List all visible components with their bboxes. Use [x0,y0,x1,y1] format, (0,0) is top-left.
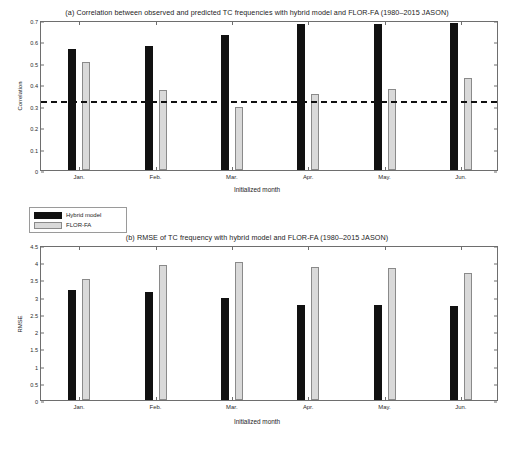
significance-reference-line [41,101,497,103]
y-axis-tick-label: 0.4 [30,83,41,89]
x-axis-tick-mark [156,397,157,400]
x-axis-tick-mark [232,397,233,400]
y-axis-tick-mark [494,264,497,265]
bar-hybrid [450,23,458,170]
y-axis-tick-mark [494,315,497,316]
x-axis-tick-mark [79,22,80,25]
legend-item-hybrid: Hybrid model [34,211,122,219]
y-axis-tick-label: 0.5 [30,62,41,68]
y-axis-tick-mark [494,384,497,385]
legend-label-hybrid: Hybrid model [66,212,101,218]
bar-flor-fa [235,262,243,400]
panel-a: (a) Correlation between observed and pre… [0,8,514,203]
y-axis-tick-mark [494,86,497,87]
panel-a-title: (a) Correlation between observed and pre… [0,8,514,17]
x-axis-tick-mark [308,22,309,25]
x-axis-tick-mark [79,167,80,170]
figure-root: (a) Correlation between observed and pre… [0,0,514,454]
y-axis-tick-label: 0.6 [30,40,41,46]
y-axis-tick-label: 0.2 [30,126,41,132]
y-axis-tick-mark [41,129,44,130]
y-axis-tick-mark [494,333,497,334]
legend-label-flor-fa: FLOR-FA [66,222,91,228]
bar-hybrid [68,49,76,170]
y-axis-tick-mark [494,298,497,299]
bar-flor-fa [311,267,319,400]
y-axis-tick-label: 2.5 [30,313,41,319]
bar-flor-fa [388,268,396,400]
y-axis-tick-mark [494,367,497,368]
x-axis-tick-label: Mar. [226,174,237,180]
y-axis-tick-mark [41,86,44,87]
bar-hybrid [68,290,76,400]
x-axis-tick-label: Jan. [74,174,85,180]
x-axis-tick-mark [79,247,80,250]
x-axis-tick-label: May. [378,174,390,180]
y-axis-tick-mark [41,333,44,334]
y-axis-tick-mark [494,43,497,44]
figure-legend: Hybrid model FLOR-FA [29,207,127,233]
y-axis-tick-mark [41,384,44,385]
y-axis-tick-mark [41,402,44,403]
x-axis-tick-label: Apr. [303,404,313,410]
x-axis-tick-label: Feb. [150,404,162,410]
bar-hybrid [145,46,153,170]
bar-hybrid [221,298,229,400]
panel-a-x-axis-label: Initialized month [0,186,514,193]
y-axis-tick-mark [41,43,44,44]
y-axis-tick-mark [41,350,44,351]
x-axis-tick-mark [385,397,386,400]
x-axis-tick-mark [385,22,386,25]
y-axis-tick-mark [41,172,44,173]
bar-flor-fa [82,279,90,400]
x-axis-tick-mark [232,167,233,170]
legend-swatch-flor-fa-icon [34,222,62,229]
x-axis-tick-mark [461,167,462,170]
y-axis-tick-mark [494,129,497,130]
bar-hybrid [450,306,458,400]
panel-b-title: (b) RMSE of TC frequency with hybrid mod… [0,233,514,242]
y-axis-tick-label: 0.3 [30,105,41,111]
legend-swatch-hybrid-icon [34,212,62,219]
x-axis-tick-mark [385,247,386,250]
y-axis-tick-mark [41,22,44,23]
y-axis-tick-mark [41,247,44,248]
bar-hybrid [297,24,305,170]
y-axis-tick-label: 0.5 [30,382,41,388]
y-axis-tick-mark [41,298,44,299]
x-axis-tick-mark [156,22,157,25]
x-axis-tick-mark [232,22,233,25]
y-axis-tick-label: 3.5 [30,278,41,284]
y-axis-tick-mark [494,172,497,173]
y-axis-tick-label: 1.5 [30,347,41,353]
x-axis-tick-mark [385,167,386,170]
y-axis-tick-mark [494,402,497,403]
x-axis-tick-mark [232,247,233,250]
x-axis-tick-mark [308,167,309,170]
y-axis-tick-mark [494,281,497,282]
bar-hybrid [297,305,305,400]
bar-flor-fa [159,265,167,400]
y-axis-tick-label: 4.5 [30,244,41,250]
y-axis-tick-mark [41,64,44,65]
y-axis-tick-mark [494,107,497,108]
y-axis-tick-mark [494,150,497,151]
x-axis-tick-label: May. [378,404,390,410]
y-axis-tick-mark [41,315,44,316]
panel-b: (b) RMSE of TC frequency with hybrid mod… [0,233,514,448]
bar-flor-fa [464,273,472,400]
panel-b-x-axis-label: Initialized month [0,418,514,425]
x-axis-tick-label: Feb. [150,174,162,180]
x-axis-tick-mark [461,22,462,25]
bar-flor-fa [235,107,243,170]
panel-a-y-axis-label: Correlation [17,82,23,111]
y-axis-tick-mark [41,367,44,368]
bar-flor-fa [464,78,472,170]
y-axis-tick-mark [494,350,497,351]
bar-flor-fa [311,94,319,170]
legend-item-flor-fa: FLOR-FA [34,221,122,229]
y-axis-tick-mark [41,264,44,265]
y-axis-tick-label: 0.1 [30,148,41,154]
x-axis-tick-label: Jun. [455,174,466,180]
y-axis-tick-mark [41,150,44,151]
